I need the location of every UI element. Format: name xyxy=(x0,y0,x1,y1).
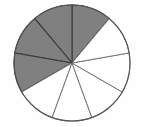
pie-chart-svg xyxy=(0,0,155,127)
fraction-circle-figure xyxy=(0,0,155,127)
sector-group xyxy=(14,5,130,121)
